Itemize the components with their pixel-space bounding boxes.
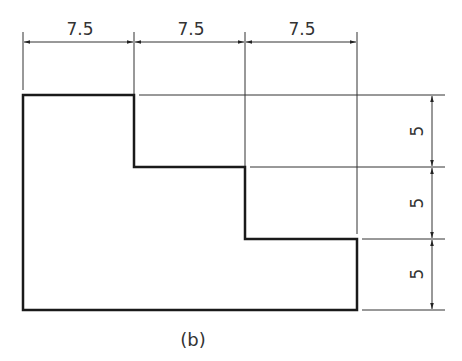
dim-label-h3: 7.5 <box>288 19 315 39</box>
stepped-profile-outline <box>23 95 357 310</box>
vertical-extension-lines <box>139 95 445 310</box>
dim-label-h1: 7.5 <box>66 19 93 39</box>
figure-caption: (b) <box>180 329 205 350</box>
stepped-drawing: 7.5 7.5 7.5 5 5 5 (b) <box>0 0 462 361</box>
dim-label-v2: 5 <box>407 198 427 209</box>
dim-label-h2: 7.5 <box>177 19 204 39</box>
dim-label-v1: 5 <box>407 126 427 137</box>
horizontal-extension-lines <box>23 32 357 239</box>
dim-label-v3: 5 <box>407 269 427 280</box>
